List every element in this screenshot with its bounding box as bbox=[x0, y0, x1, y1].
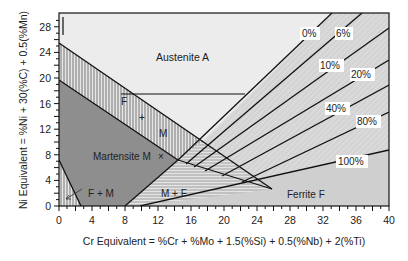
label-m-plus-f: M + F bbox=[161, 188, 187, 199]
label-austenite: Austenite A bbox=[156, 51, 209, 63]
x-tick-label: 36 bbox=[350, 214, 362, 226]
label-pct-6: 6% bbox=[336, 28, 351, 39]
x-tick-label: 24 bbox=[251, 214, 263, 226]
x-axis-title: Cr Equivalent = %Cr + %Mo + 1.5(%Si) + 0… bbox=[83, 235, 365, 247]
label-pct-80: 80% bbox=[357, 116, 377, 127]
x-tick-label: 16 bbox=[185, 214, 197, 226]
label-pct-100: 100% bbox=[338, 156, 364, 167]
label-pct-10: 10% bbox=[320, 60, 340, 71]
y-axis-title: Ni Equivalent = %Ni + 30(%C) + 0.5(%Mn) bbox=[17, 11, 29, 209]
label-martensite: Martensite M bbox=[93, 151, 151, 162]
y-tick-label: 28 bbox=[39, 21, 51, 33]
x-axis-ticks bbox=[59, 206, 389, 211]
x-tick-labels: 0 4 8 12 16 20 24 28 32 36 40 bbox=[56, 214, 395, 226]
x-tick-label: 4 bbox=[89, 214, 95, 226]
x-tick-label: 0 bbox=[56, 214, 62, 226]
label-cross: × bbox=[158, 151, 164, 162]
label-f-plus-m: F + M bbox=[88, 188, 114, 199]
schaeffler-diagram: Austenite A F + M Martensite M × F + M M… bbox=[0, 0, 408, 261]
label-m: M bbox=[159, 128, 167, 139]
label-f: F bbox=[121, 96, 127, 107]
label-ferrite: Ferrite F bbox=[287, 189, 325, 200]
y-tick-label: 0 bbox=[45, 200, 51, 212]
y-tick-label: 20 bbox=[39, 72, 51, 84]
x-tick-label: 12 bbox=[152, 214, 164, 226]
x-tick-label: 20 bbox=[218, 214, 230, 226]
x-tick-label: 40 bbox=[383, 214, 395, 226]
x-tick-label: 32 bbox=[317, 214, 329, 226]
y-tick-labels: 0 4 8 12 16 20 24 28 bbox=[39, 21, 51, 212]
label-pct-20: 20% bbox=[351, 69, 371, 80]
y-tick-label: 8 bbox=[45, 149, 51, 161]
label-pct-0: 0% bbox=[302, 28, 317, 39]
label-pct-40: 40% bbox=[326, 103, 346, 114]
y-axis-ticks bbox=[54, 20, 59, 206]
label-plus: + bbox=[139, 112, 145, 123]
y-tick-label: 4 bbox=[45, 174, 51, 186]
y-tick-label: 16 bbox=[39, 98, 51, 110]
x-tick-label: 8 bbox=[122, 214, 128, 226]
y-tick-label: 12 bbox=[39, 123, 51, 135]
x-tick-label: 28 bbox=[284, 214, 296, 226]
y-tick-label: 24 bbox=[39, 46, 51, 58]
